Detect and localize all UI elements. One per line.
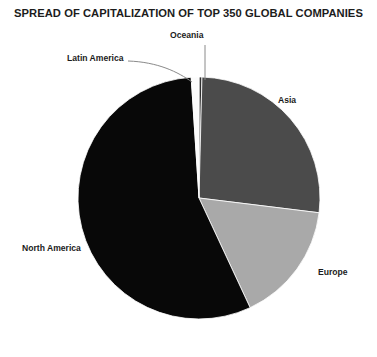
pie-chart [0, 0, 377, 357]
pie-slice-group [78, 77, 320, 319]
pie-label-north-america: North America [22, 244, 81, 253]
pie-label-oceania: Oceania [170, 31, 203, 40]
chart-canvas: SPREAD OF CAPITALIZATION OF TOP 350 GLOB… [0, 0, 377, 357]
pie-label-latin-america: Latin America [67, 54, 124, 63]
pie-slice-asia [199, 77, 320, 213]
pie-label-europe: Europe [318, 268, 348, 277]
pie-label-asia: Asia [278, 96, 296, 105]
